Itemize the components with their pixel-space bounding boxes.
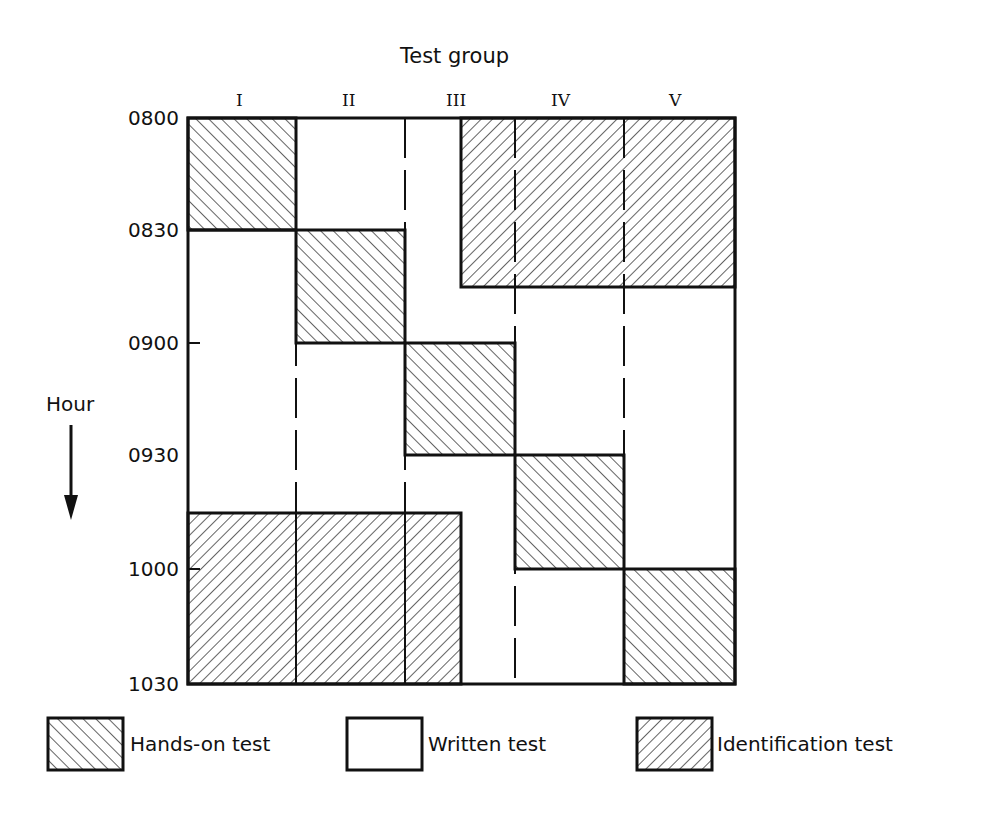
time-label-0930: 0930	[128, 443, 179, 467]
group-label-I: I	[236, 90, 243, 110]
group-label-IV: IV	[551, 90, 570, 110]
legend-swatch-written	[347, 718, 422, 770]
y-axis-label: Hour	[46, 392, 94, 416]
hands-on-block-II	[296, 230, 405, 343]
hour-arrow-icon	[64, 425, 78, 520]
group-label-III: III	[446, 90, 466, 110]
time-label-0800: 0800	[128, 106, 179, 130]
legend-swatch-identification	[637, 718, 712, 770]
time-label-1030: 1030	[128, 672, 179, 696]
time-label-0830: 0830	[128, 218, 179, 242]
group-label-II: II	[342, 90, 355, 110]
legend-swatch-hands-on	[48, 718, 123, 770]
hands-on-block-V	[624, 569, 735, 684]
hands-on-block-IV	[515, 455, 624, 569]
identification-block-top	[461, 118, 735, 287]
identification-block-bottom	[188, 513, 461, 684]
legend-label-identification: Identification test	[717, 732, 893, 756]
hands-on-block-III	[405, 343, 515, 455]
group-label-V: V	[669, 90, 681, 110]
hands-on-block-I	[188, 118, 296, 230]
time-label-0900: 0900	[128, 331, 179, 355]
legend-label-hands-on: Hands-on test	[130, 732, 270, 756]
diagram-title: Test group	[400, 44, 509, 68]
legend-label-written: Written test	[428, 732, 546, 756]
time-label-1000: 1000	[128, 557, 179, 581]
